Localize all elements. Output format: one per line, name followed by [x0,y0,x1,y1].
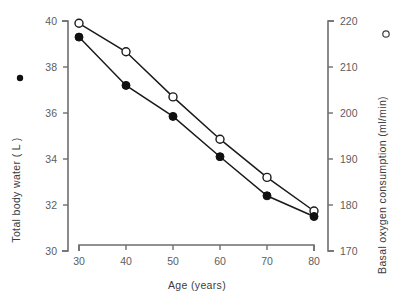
data-point-filled [310,213,318,221]
x-axis-title: Age (years) [168,279,226,291]
left-axis-group: 40 38 36 34 32 30 [45,15,68,257]
x-axis-tick-label: 60 [214,255,226,267]
series-basal-oxygen-consumption [75,19,318,215]
right-axis-title-group: Basal oxygen consumption (ml/min) [376,31,389,274]
left-axis-title-group: Total body water ( L ) [10,75,23,243]
line-chart-canvas: 40 38 36 34 32 30 220 210 200 190 180 17… [0,0,405,299]
left-axis-tick-label: 36 [45,107,57,119]
data-point-filled [169,112,177,120]
series-line-open [79,23,314,211]
x-axis-tick-label: 40 [120,255,132,267]
right-axis-tick-label: 220 [340,15,358,27]
x-axis-line [79,245,314,251]
right-axis-tick-label: 210 [340,61,358,73]
left-axis-tick-label: 30 [45,245,57,257]
data-point-open [122,48,130,56]
filled-circle-icon [17,75,23,81]
chart-figure: 40 38 36 34 32 30 220 210 200 190 180 17… [0,0,405,299]
right-axis-group: 220 210 200 190 180 170 [328,15,358,257]
data-point-filled [75,33,83,41]
x-axis-group: 30 40 50 60 70 80 Age (years) [73,245,320,291]
data-point-filled [216,153,224,161]
right-axis-tick-label: 200 [340,107,358,119]
x-axis-tick-label: 80 [308,255,320,267]
open-circle-icon [383,31,389,37]
left-axis-tick-label: 32 [45,199,57,211]
right-axis-title: Basal oxygen consumption (ml/min) [376,96,388,274]
right-axis-tick-label: 190 [340,153,358,165]
x-axis-tick-label: 50 [167,255,179,267]
series-line-filled [79,37,314,216]
right-axis-tick-label: 170 [340,245,358,257]
data-point-open [75,19,83,27]
left-axis-tick-label: 40 [45,15,57,27]
left-axis-title: Total body water ( L ) [10,137,22,242]
x-axis-tick-label: 30 [73,255,85,267]
data-point-open [263,173,271,181]
data-point-open [216,135,224,143]
left-axis-tick-label: 38 [45,61,57,73]
x-axis-tick-label: 70 [261,255,273,267]
data-point-filled [263,192,271,200]
right-axis-line [328,21,334,251]
data-point-open [169,93,177,101]
left-axis-line [62,21,68,251]
right-axis-tick-label: 180 [340,199,358,211]
series-total-body-water [75,33,318,220]
left-axis-tick-label: 34 [45,153,57,165]
data-point-filled [122,81,130,89]
